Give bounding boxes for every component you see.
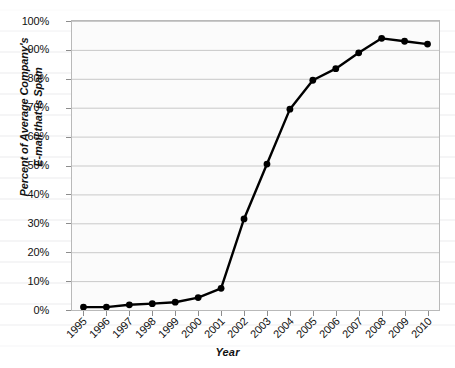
x-axis-tick-mark <box>152 311 153 316</box>
x-axis-tick-mark <box>382 311 383 316</box>
x-axis-title: Year <box>0 346 455 358</box>
x-axis-tick-mark <box>244 311 245 316</box>
x-axis-tick-mark <box>198 311 199 316</box>
x-axis-tick-labels: 1995199619971998199920002001200220032004… <box>0 0 455 368</box>
x-axis-tick-mark <box>267 311 268 316</box>
x-axis-tick-mark <box>83 311 84 316</box>
x-axis-tick-mark <box>336 311 337 316</box>
x-axis-tick-mark <box>359 311 360 316</box>
x-axis-tick-mark <box>428 311 429 316</box>
x-axis-tick-mark <box>175 311 176 316</box>
x-axis-tick-mark <box>129 311 130 316</box>
x-axis-tick-mark <box>405 311 406 316</box>
x-axis-tick-mark <box>313 311 314 316</box>
x-axis-tick-mark <box>290 311 291 316</box>
x-axis-tick-mark <box>221 311 222 316</box>
x-axis-tick-mark <box>106 311 107 316</box>
spam-percentage-line-chart: Percent of Average Company's E-mail that… <box>0 0 455 368</box>
